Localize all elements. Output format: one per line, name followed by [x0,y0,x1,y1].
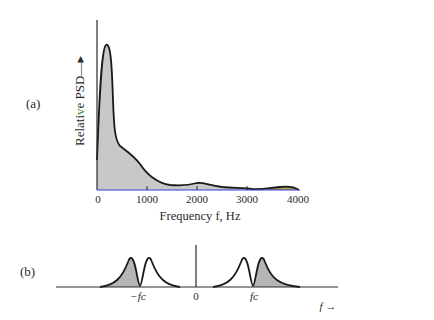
xtick-1000: 1000 [136,193,158,205]
tick-fc: fᴄ [250,290,258,302]
chart-canvas [0,0,434,320]
y-axis-label: Relative PSD—▸ [72,56,88,146]
panel-b-plot [56,245,338,287]
psd-area [97,45,299,190]
xtick-2000: 2000 [186,193,208,205]
xtick-3000: 3000 [236,193,258,205]
tick-zero: 0 [193,290,199,302]
f-axis-label: f → [320,300,337,312]
xtick-0: 0 [95,193,101,205]
tick-neg-fc: −fᴄ [130,290,145,302]
x-axis-label: Frequency f, Hz [160,209,241,224]
xtick-4000: 4000 [287,193,309,205]
panel-a-plot [97,20,300,190]
